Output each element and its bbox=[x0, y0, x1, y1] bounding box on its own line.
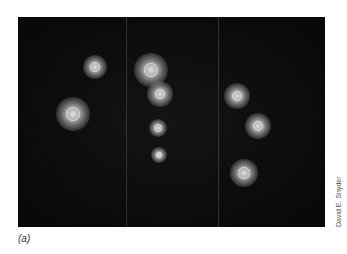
cell bbox=[230, 159, 258, 187]
cell bbox=[245, 113, 271, 139]
cell bbox=[147, 81, 173, 107]
micrograph-image bbox=[18, 17, 325, 227]
cell bbox=[151, 147, 167, 163]
streak-line bbox=[126, 17, 127, 227]
cell bbox=[83, 55, 107, 79]
cell bbox=[224, 83, 250, 109]
figure-label: (a) bbox=[18, 233, 30, 244]
cell bbox=[56, 97, 90, 131]
photo-credit: David E. Snyder bbox=[335, 176, 342, 227]
streak-line bbox=[218, 17, 219, 227]
cell bbox=[149, 119, 167, 137]
